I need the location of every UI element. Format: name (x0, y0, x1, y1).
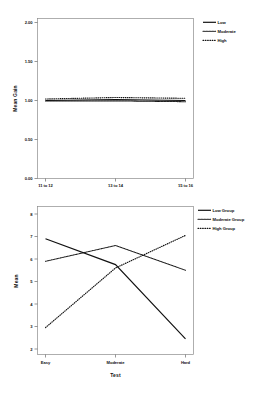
y-tick-label: 1.50 (25, 59, 34, 64)
legend: Low Moderate High (203, 20, 236, 43)
legend-label-low-group: Low Group (213, 208, 235, 213)
y-tick-label: 7 (30, 234, 33, 239)
y-tick-label: 3 (30, 324, 33, 329)
y-tick-label: 8 (30, 212, 33, 217)
x-tick-label: 13 to 14 (108, 183, 124, 188)
legend-label-low: Low (218, 20, 227, 25)
x-tick-label: Moderate (107, 360, 126, 365)
legend-label-moderate-group: Moderate Group (213, 217, 245, 222)
x-axis-ticks (46, 179, 186, 182)
series-group (46, 235, 186, 339)
series-line-high (46, 98, 186, 100)
y-axis-title: Mean Gain (12, 85, 18, 112)
x-axis-tick-labels: 11 to 12 13 to 14 15 to 16 (38, 183, 194, 188)
legend-label-high-group: High Group (213, 226, 236, 231)
x-axis-tick-labels: Easy Moderate Hard (41, 360, 191, 365)
y-tick-label: 6 (30, 257, 33, 262)
x-axis-title: Test (110, 372, 121, 378)
legend: Low Group Moderate Group High Group (198, 208, 245, 231)
mean-by-test-figure: 8 7 6 5 4 3 2 Mean Easy Moderate Hard Te… (0, 196, 270, 404)
mean-gain-figure: 2.00 1.50 1.00 0.50 0.00 Mean Gain 11 to… (0, 0, 270, 196)
x-tick-label: 15 to 16 (178, 183, 194, 188)
mean-gain-plot: 2.00 1.50 1.00 0.50 0.00 Mean Gain 11 to… (0, 0, 270, 196)
legend-label-high: High (218, 38, 228, 43)
y-tick-label: 2.00 (25, 20, 34, 25)
y-tick-label: 0.50 (25, 137, 34, 142)
y-axis-tick-labels: 8 7 6 5 4 3 2 (30, 212, 33, 352)
series-line-high-group (46, 235, 186, 327)
y-axis-tick-labels: 2.00 1.50 1.00 0.50 0.00 (25, 20, 34, 181)
plot-frame (38, 207, 194, 355)
series-line-moderate (46, 101, 186, 102)
x-tick-label: Easy (41, 360, 51, 365)
y-tick-label: 4 (30, 302, 33, 307)
y-axis-ticks (35, 214, 38, 349)
y-tick-label: 1.00 (25, 98, 34, 103)
y-tick-label: 0.00 (25, 176, 34, 181)
y-tick-label: 5 (30, 279, 33, 284)
series-line-low (46, 100, 186, 101)
series-group (46, 98, 186, 102)
y-axis-title: Mean (13, 274, 19, 287)
y-axis-ticks (35, 23, 38, 179)
y-tick-label: 2 (30, 347, 33, 352)
x-axis-ticks (46, 355, 186, 358)
mean-by-test-plot: 8 7 6 5 4 3 2 Mean Easy Moderate Hard Te… (0, 196, 270, 404)
legend-label-moderate: Moderate (218, 29, 237, 34)
x-tick-label: Hard (181, 360, 191, 365)
series-line-low-group (46, 239, 186, 339)
x-tick-label: 11 to 12 (38, 183, 53, 188)
series-line-moderate-group (46, 246, 186, 271)
